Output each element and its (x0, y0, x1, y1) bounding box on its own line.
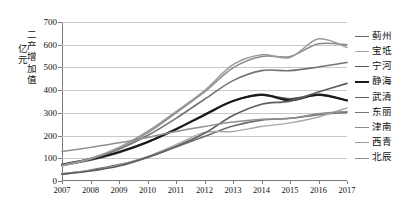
legend-item-宁河[interactable]: 宁河 (355, 60, 393, 73)
x-tick-label: 2009 (111, 185, 128, 195)
series-line-津南 (62, 43, 347, 165)
x-tick-label: 2017 (339, 185, 356, 195)
legend-line-swatch (355, 158, 369, 159)
legend-item-武清[interactable]: 武清 (355, 91, 393, 104)
legend-item-label: 静海 (372, 77, 393, 87)
legend-line-swatch (355, 142, 369, 143)
x-tick (176, 181, 177, 184)
x-tick-label: 2013 (225, 185, 242, 195)
x-tick (290, 181, 291, 184)
legend-line-swatch (355, 97, 369, 98)
x-tick (347, 181, 348, 184)
x-tick (319, 181, 320, 184)
series-line-武清 (62, 83, 347, 174)
y-tick-label: 600 (27, 40, 57, 50)
x-tick-label: 2007 (54, 185, 71, 195)
legend-item-label: 西青 (372, 138, 393, 148)
x-tick-label: 2012 (196, 185, 213, 195)
x-tick (91, 181, 92, 184)
plot-area: 0100200300400500600700 20072008200920102… (62, 22, 347, 181)
legend-item-label: 蓟州 (372, 32, 393, 42)
x-tick (148, 181, 149, 184)
x-tick-label: 2011 (168, 185, 185, 195)
legend-item-label: 宁河 (372, 62, 393, 72)
series-lines (62, 22, 347, 181)
legend-item-label: 宝坻 (372, 47, 393, 57)
legend-item-西青[interactable]: 西青 (355, 136, 393, 149)
legend-item-label: 北辰 (372, 153, 393, 163)
series-line-北辰 (62, 111, 347, 151)
series-line-蓟州 (62, 112, 347, 174)
y-tick-label: 700 (27, 17, 57, 27)
x-tick (233, 181, 234, 184)
legend: 蓟州宝坻宁河静海武清东丽津南西青北辰 (355, 30, 393, 165)
legend-item-label: 东丽 (372, 108, 393, 118)
legend-item-宝坻[interactable]: 宝坻 (355, 45, 393, 58)
y-tick-label: 300 (27, 108, 57, 118)
legend-item-蓟州[interactable]: 蓟州 (355, 30, 393, 43)
x-tick (262, 181, 263, 184)
series-line-宝坻 (62, 108, 347, 174)
x-tick (119, 181, 120, 184)
legend-item-东丽[interactable]: 东丽 (355, 106, 393, 119)
legend-line-swatch (355, 51, 369, 52)
legend-line-swatch (355, 66, 369, 67)
x-tick-label: 2015 (282, 185, 299, 195)
legend-line-swatch (355, 81, 369, 83)
legend-item-静海[interactable]: 静海 (355, 76, 393, 89)
legend-line-swatch (355, 36, 369, 37)
legend-item-label: 津南 (372, 123, 393, 133)
y-tick-label: 100 (27, 153, 57, 163)
x-tick-label: 2010 (139, 185, 156, 195)
y-tick-label: 400 (27, 85, 57, 95)
x-tick-label: 2016 (310, 185, 327, 195)
line-chart: 亿元 二产增加值 0100200300400500600700 20072008… (0, 0, 418, 217)
y-tick-label: 500 (27, 62, 57, 72)
x-tick (62, 181, 63, 184)
series-line-西青 (62, 39, 347, 166)
legend-item-津南[interactable]: 津南 (355, 121, 393, 134)
x-tick-label: 2008 (82, 185, 99, 195)
y-axis-title-unit: 亿元 (16, 30, 26, 66)
legend-item-label: 武清 (372, 93, 393, 103)
legend-item-北辰[interactable]: 北辰 (355, 152, 393, 165)
y-tick-label: 200 (27, 131, 57, 141)
y-tick-label: 0 (27, 176, 57, 186)
x-tick-label: 2014 (253, 185, 270, 195)
legend-line-swatch (355, 112, 369, 113)
legend-line-swatch (355, 127, 369, 128)
x-tick (205, 181, 206, 184)
y-axis-title-main: 二产增加值 (26, 30, 36, 86)
